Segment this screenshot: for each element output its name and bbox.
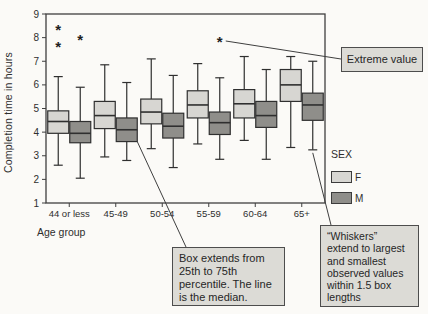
box-M-60-64 bbox=[256, 70, 277, 160]
svg-text:1: 1 bbox=[33, 198, 39, 209]
svg-text:8: 8 bbox=[33, 32, 39, 43]
boxplot-figure: 12345678944 or less45-4950-5455-5960-646… bbox=[0, 0, 428, 314]
annotation-extreme-value: Extreme value bbox=[341, 47, 423, 72]
box-M-44 or less: * bbox=[70, 31, 91, 179]
extreme-value-marker: * bbox=[77, 31, 83, 48]
svg-text:44 or less: 44 or less bbox=[49, 208, 90, 219]
legend-swatch-m bbox=[331, 192, 352, 204]
svg-text:60-64: 60-64 bbox=[243, 208, 267, 219]
svg-text:45-49: 45-49 bbox=[104, 208, 128, 219]
box-M-65+ bbox=[302, 61, 323, 150]
x-axis-title: Age group bbox=[37, 226, 85, 238]
annotation-box-percentile-note: Box extends from 25th to 75th percentile… bbox=[172, 247, 285, 306]
y-axis: 123456789 bbox=[33, 9, 46, 209]
box-M-55-59: * bbox=[209, 33, 230, 159]
box-F-50-54 bbox=[141, 59, 162, 149]
legend-item-m: M bbox=[331, 192, 363, 204]
x-axis: 44 or less45-4950-5455-5960-6465+ bbox=[49, 203, 311, 219]
box-M-50-54 bbox=[163, 75, 184, 167]
legend-label-f: F bbox=[355, 172, 361, 183]
extreme-value-marker: * bbox=[55, 21, 61, 38]
box-F-45-49 bbox=[94, 65, 115, 157]
box-M-45-49 bbox=[116, 83, 137, 161]
legend-item-f: F bbox=[331, 171, 361, 183]
svg-text:65+: 65+ bbox=[294, 208, 311, 219]
legend-label-m: M bbox=[355, 193, 363, 204]
extreme-value-marker: * bbox=[55, 38, 61, 55]
svg-text:3: 3 bbox=[33, 150, 39, 161]
svg-text:55-59: 55-59 bbox=[197, 208, 221, 219]
box-F-55-59 bbox=[187, 64, 208, 144]
svg-text:9: 9 bbox=[33, 9, 39, 20]
svg-text:2: 2 bbox=[33, 174, 39, 185]
svg-text:7: 7 bbox=[33, 56, 39, 67]
legend-swatch-f bbox=[331, 171, 352, 183]
svg-text:5: 5 bbox=[33, 103, 39, 114]
svg-text:6: 6 bbox=[33, 79, 39, 90]
plot-frame bbox=[46, 14, 325, 203]
extreme-value-marker: * bbox=[217, 33, 223, 50]
box-F-60-64 bbox=[234, 57, 255, 141]
annotation-whiskers-note: “Whiskers” extend to largest and smalles… bbox=[320, 225, 419, 307]
svg-text:4: 4 bbox=[33, 127, 39, 138]
box-F-65+ bbox=[280, 57, 301, 148]
y-axis-title: Completion time in hours bbox=[2, 48, 15, 178]
legend-title: SEX bbox=[331, 148, 352, 160]
box-F-44 or less: ** bbox=[48, 21, 69, 165]
